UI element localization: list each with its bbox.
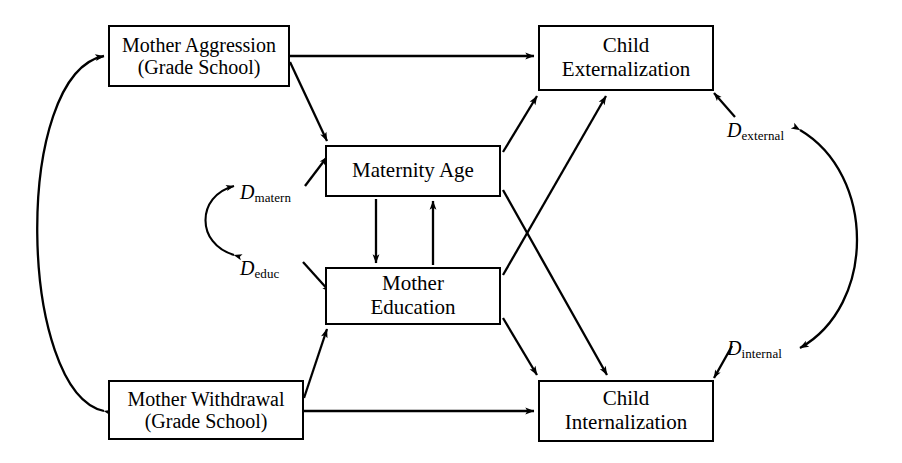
node-mother-withdrawal-label: Mother Withdrawal (Grade School) bbox=[110, 388, 302, 433]
disturbance-label-internal: Dinternal bbox=[727, 338, 782, 358]
node-mother-withdrawal: Mother Withdrawal (Grade School) bbox=[108, 380, 304, 440]
node-child-internalization: Child Internalization bbox=[538, 380, 714, 442]
node-mother-education: Mother Education bbox=[325, 267, 501, 325]
covariance-d-matern-d-educ bbox=[206, 186, 235, 255]
node-maternity-age-label: Maternity Age bbox=[327, 159, 499, 183]
disturbance-label-external: Dexternal bbox=[727, 120, 784, 140]
node-mother-education-label: Mother Education bbox=[327, 272, 499, 319]
node-maternity-age: Maternity Age bbox=[325, 145, 501, 197]
node-child-externalization: Child Externalization bbox=[538, 25, 714, 91]
edge-mother-education-to-internalization bbox=[503, 318, 537, 375]
edge-aggression-to-maternity-age bbox=[290, 62, 327, 141]
node-mother-aggression-label: Mother Aggression (Grade School) bbox=[110, 34, 288, 79]
node-child-internalization-label: Child Internalization bbox=[540, 387, 712, 434]
edge-maternity-age-to-externalization bbox=[503, 96, 537, 152]
covariance-d-external-d-internal bbox=[800, 130, 857, 348]
edge-maternity-age-to-internalization bbox=[503, 190, 607, 375]
covariance-aggression-withdrawal bbox=[37, 56, 104, 411]
edge-d-external-to-externalization bbox=[714, 93, 735, 117]
disturbance-label-matern: Dmatern bbox=[240, 182, 291, 202]
disturbance-label-educ: Deduc bbox=[240, 258, 279, 278]
edge-withdrawal-to-mother-education bbox=[304, 329, 327, 398]
edge-d-matern-to-maternity-age bbox=[305, 157, 327, 186]
path-diagram: Mother Aggression (Grade School) Child E… bbox=[0, 0, 902, 463]
node-mother-aggression: Mother Aggression (Grade School) bbox=[108, 25, 290, 87]
edge-mother-education-to-externalization bbox=[503, 96, 606, 275]
node-child-externalization-label: Child Externalization bbox=[540, 34, 712, 81]
